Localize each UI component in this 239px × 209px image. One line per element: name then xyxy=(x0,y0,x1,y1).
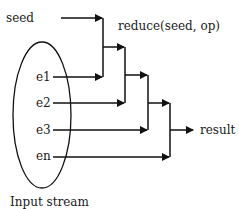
input-label-e3: e3 xyxy=(36,123,51,137)
input-stream-label: Input stream xyxy=(10,195,89,209)
input-label-e2: e2 xyxy=(36,96,51,110)
result-label: result xyxy=(200,123,236,137)
input-label-en: en xyxy=(36,149,51,163)
reduce-title: reduce(seed, op) xyxy=(118,19,220,33)
input-label-e1: e1 xyxy=(36,70,51,84)
input-stream-ellipse xyxy=(13,42,71,188)
reduce-diagram: seed reduce(seed, op) e1 e2 e3 en result… xyxy=(0,0,239,209)
seed-label: seed xyxy=(6,11,34,25)
flow-arrows xyxy=(53,18,193,157)
